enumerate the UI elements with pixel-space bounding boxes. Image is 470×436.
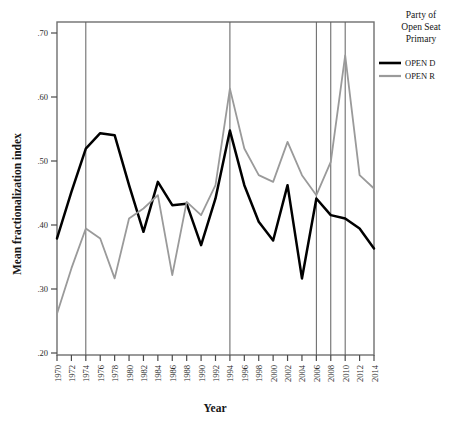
- x-tick-label: 1980: [125, 365, 135, 382]
- x-tick-label: 2004: [297, 364, 307, 382]
- x-tick-label: 1982: [139, 365, 149, 382]
- y-tick-label: .20: [37, 348, 48, 358]
- x-tick-label: 2000: [269, 365, 279, 382]
- series-line-open-d: [57, 131, 374, 279]
- y-tick-group: .40: [37, 220, 57, 230]
- series-line-open-r: [57, 55, 374, 313]
- x-tick-label: 1996: [240, 365, 250, 382]
- x-tick-label: 2014: [370, 364, 380, 382]
- y-tick-label: .70: [37, 28, 48, 38]
- fractionalization-line-chart: Mean fractionalization index .20 .30 .40…: [0, 0, 470, 436]
- x-tick-label: 2012: [355, 365, 365, 382]
- chart-container: Mean fractionalization index .20 .30 .40…: [0, 0, 470, 436]
- x-tick-label: 2008: [326, 365, 336, 382]
- x-tick-label: 1978: [110, 365, 120, 382]
- x-tick-label: 2006: [312, 365, 322, 382]
- y-tick-group: .60: [37, 92, 57, 102]
- x-tick-label: 2002: [283, 365, 293, 382]
- x-axis: 1970197219741976197819801982198419861988…: [53, 355, 380, 382]
- reference-lines: [86, 22, 345, 355]
- legend-label-open-d: OPEN D: [405, 58, 435, 68]
- y-axis: .20 .30 .40 .50 .60 .70: [37, 28, 57, 358]
- legend-label-open-r: OPEN R: [405, 71, 435, 81]
- x-tick-label: 2010: [341, 365, 351, 382]
- y-axis-title: Mean fractionalization index: [11, 133, 23, 275]
- y-tick-group: .70: [37, 28, 57, 38]
- legend-title-line: Party of: [406, 10, 437, 20]
- y-tick-label: .40: [37, 220, 48, 230]
- x-tick-label: 1970: [53, 365, 63, 382]
- x-tick-label: 1972: [67, 365, 77, 382]
- y-tick-label: .50: [37, 156, 48, 166]
- plot-frame: [57, 22, 374, 355]
- x-tick-label: 1976: [96, 365, 106, 382]
- x-tick-label: 1986: [168, 365, 178, 382]
- x-tick-label: 1992: [211, 365, 221, 382]
- legend-title-line: Primary: [406, 34, 437, 44]
- y-tick-group: .30: [37, 284, 57, 294]
- legend-item-open-r[interactable]: OPEN R: [379, 71, 435, 81]
- x-tick-label: 1974: [81, 364, 91, 382]
- legend-title-line: Open Seat: [401, 22, 441, 32]
- legend: Party of Open Seat Primary OPEN D OPEN R: [379, 10, 441, 81]
- x-tick-label: 1994: [225, 364, 235, 382]
- x-tick-label: 1990: [197, 365, 207, 382]
- y-tick-group: .20: [37, 348, 57, 358]
- x-tick-label: 1988: [182, 365, 192, 382]
- series-layer: [57, 55, 374, 313]
- y-tick-label: .30: [37, 284, 48, 294]
- legend-item-open-d[interactable]: OPEN D: [379, 58, 435, 68]
- y-tick-label: .60: [37, 92, 48, 102]
- x-tick-label: 1984: [153, 364, 163, 382]
- y-tick-group: .50: [37, 156, 57, 166]
- x-axis-title: Year: [204, 402, 227, 414]
- x-tick-label: 1998: [254, 365, 264, 382]
